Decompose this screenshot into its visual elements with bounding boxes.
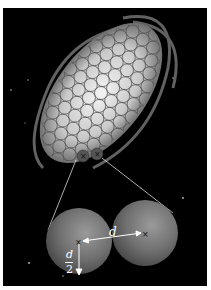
radius-label-numerator: d: [66, 248, 73, 261]
svg-text:×: ×: [80, 152, 87, 161]
radius-label-denominator: 2: [66, 263, 73, 276]
galaxy-diagram: × × × ×: [3, 8, 207, 286]
svg-text:×: ×: [142, 230, 149, 239]
distance-label: d: [109, 225, 117, 239]
svg-text:×: ×: [94, 150, 101, 159]
svg-text:×: ×: [75, 238, 82, 247]
figure-frame: × × × × d d 2: [3, 8, 207, 286]
